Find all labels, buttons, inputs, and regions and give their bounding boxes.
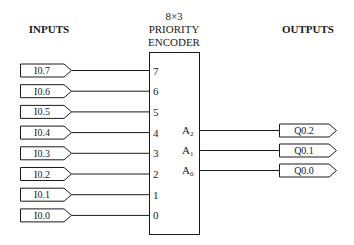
input-tag-label: I0.0 [34, 210, 50, 221]
encoder-title-size: 8×3 [165, 10, 183, 22]
output-tag-label: Q0.1 [294, 145, 314, 156]
input-pin-label: 2 [153, 168, 159, 180]
output-pin-label: A0 [182, 164, 194, 178]
input-pin-label: 0 [153, 209, 159, 221]
outputs-group: A2Q0.2A1Q0.1A0Q0.0 [182, 124, 337, 178]
output-row: A1Q0.1 [182, 144, 337, 158]
output-row: A0Q0.0 [182, 164, 337, 178]
output-tag-label: Q0.0 [294, 165, 314, 176]
output-tag-label: Q0.2 [294, 125, 314, 136]
input-row: I0.66 [21, 85, 160, 98]
input-pin-label: 5 [153, 106, 159, 118]
inputs-group: I0.77I0.66I0.55I0.44I0.33I0.22I0.11I0.00 [21, 64, 160, 222]
input-row: I0.55 [21, 105, 160, 118]
output-row: A2Q0.2 [182, 124, 337, 138]
input-tag-label: I0.1 [34, 189, 50, 200]
encoder-title-priority: PRIORITY [149, 23, 200, 35]
input-tag-label: I0.3 [34, 148, 50, 159]
input-tag-label: I0.5 [34, 106, 50, 117]
input-row: I0.44 [21, 126, 160, 139]
input-tag-label: I0.2 [34, 169, 50, 180]
encoder-title-encoder: ENCODER [148, 36, 201, 48]
input-row: I0.22 [21, 168, 159, 181]
input-tag-label: I0.4 [34, 127, 50, 138]
input-row: I0.33 [21, 147, 160, 160]
input-tag-label: I0.7 [34, 65, 50, 76]
input-tag-label: I0.6 [34, 86, 50, 97]
input-row: I0.00 [21, 209, 160, 222]
output-pin-label: A1 [182, 144, 194, 158]
input-row: I0.77 [21, 64, 160, 77]
encoder-block [150, 53, 200, 235]
input-pin-label: 7 [153, 65, 159, 77]
input-pin-label: 1 [153, 189, 159, 201]
input-pin-label: 6 [153, 85, 159, 97]
outputs-header: OUTPUTS [282, 23, 334, 35]
inputs-header: INPUTS [29, 23, 69, 35]
input-pin-label: 3 [153, 147, 159, 159]
priority-encoder-diagram: INPUTS OUTPUTS 8×3 PRIORITY ENCODER I0.7… [0, 0, 354, 245]
output-pin-label: A2 [182, 124, 194, 138]
input-row: I0.11 [21, 188, 159, 201]
input-pin-label: 4 [153, 127, 159, 139]
